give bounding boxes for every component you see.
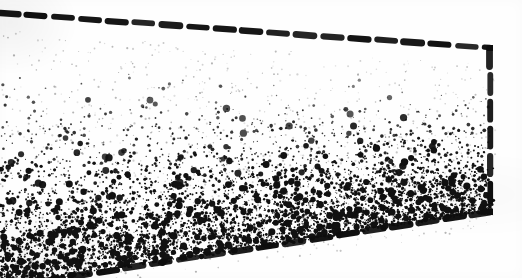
scatter-plot-canvas [0, 0, 522, 278]
figure-root [0, 0, 522, 278]
